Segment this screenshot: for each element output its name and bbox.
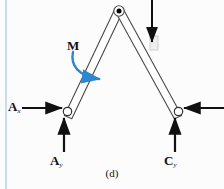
label-moment: M: [67, 39, 79, 52]
label-moment-base: M: [67, 38, 79, 53]
label-ax-base: A: [8, 99, 17, 114]
pin-support-c: [174, 107, 182, 115]
label-ax: Ax: [8, 100, 21, 113]
label-ax-sub: x: [17, 107, 20, 115]
label-cy: Cy: [164, 154, 177, 167]
figure-caption: (d): [0, 167, 224, 179]
label-ay-base: A: [50, 153, 59, 168]
label-ay: Ay: [50, 154, 63, 167]
label-cy-base: C: [164, 153, 173, 168]
apex-pin-b: [114, 6, 124, 16]
pin-support-a: [63, 107, 71, 115]
diagram-canvas: [0, 0, 224, 189]
member-bc: [115, 8, 182, 119]
free-body-diagram-figure: Ax Ay Cy M (d): [0, 0, 224, 189]
